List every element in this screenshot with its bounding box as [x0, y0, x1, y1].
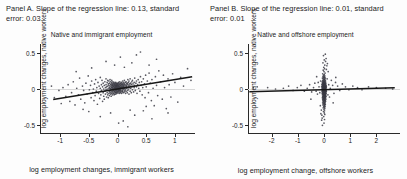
figure-container: Panel A. Slope of the regression line: 0… — [0, 0, 407, 179]
x-tick-label: -1 — [295, 137, 301, 144]
panel-b-regression-line — [248, 44, 400, 134]
y-tick-label: -0.5 — [24, 122, 35, 129]
x-tick-label: 1 — [173, 137, 177, 144]
x-tick-label: 0.5 — [142, 137, 151, 144]
panel-a-regression-line — [40, 44, 195, 134]
x-tick-label: -2 — [269, 137, 275, 144]
y-tick-label: 0.5 — [234, 49, 243, 56]
panel-a-y-axis-label: log employment changes, native workers — [40, 32, 48, 128]
x-tick-label: 2 — [375, 137, 379, 144]
y-tick-label: -0.5 — [232, 122, 243, 129]
x-tick-label: -0.5 — [83, 137, 94, 144]
panel-a: Panel A. Slope of the regression line: 0… — [0, 0, 203, 179]
panel-b-subtitle: Native and offshore employment — [204, 31, 407, 38]
panel-b-x-axis-label: log employment change, offshore workers — [204, 166, 407, 175]
y-tick-label: 0 — [239, 86, 243, 93]
x-tick-label: 0 — [116, 137, 120, 144]
x-tick-label: 0 — [322, 137, 326, 144]
panel-a-subtitle: Native and immigrant employment — [0, 31, 203, 38]
y-tick-label: 0.5 — [26, 49, 35, 56]
panel-b-caption: Panel B. Slope of the regression line: 0… — [210, 4, 402, 23]
panel-a-x-axis-label: log employment changes, immigrant worker… — [0, 165, 203, 174]
panel-b-y-axis-label: log employment changes, native workers — [250, 32, 258, 128]
x-tick-label: 1 — [348, 137, 352, 144]
panel-b-plot-area: -0.500.5 -2-1012 log employment changes,… — [248, 44, 400, 134]
y-tick-label: 0 — [31, 86, 35, 93]
x-tick-label: -1 — [57, 137, 63, 144]
panel-b: Panel B. Slope of the regression line: 0… — [204, 0, 407, 179]
panel-a-caption: Panel A. Slope of the regression line: 0… — [6, 4, 198, 23]
panel-a-plot-area: -0.500.5 -1-0.500.51 log employment chan… — [40, 44, 195, 134]
